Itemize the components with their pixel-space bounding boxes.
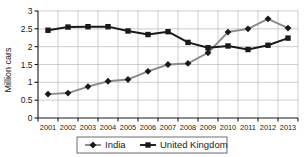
y-tick-label: 3 — [28, 6, 33, 16]
data-point-marker — [265, 43, 270, 48]
data-point-marker — [265, 15, 272, 22]
x-tick-label: 2004 — [100, 123, 116, 132]
data-point-marker — [145, 32, 150, 37]
data-point-marker — [105, 78, 112, 85]
x-tick-label: 2010 — [220, 123, 236, 132]
data-point-marker — [125, 28, 130, 33]
line-chart-container: 00.511.522.53 20012002200320042005200620… — [0, 0, 304, 157]
x-tick-label: 2008 — [180, 123, 196, 132]
series-united-kingdom — [45, 24, 290, 52]
x-tick-label: 2011 — [240, 123, 256, 132]
y-tick-label: 1 — [28, 77, 33, 87]
data-point-marker — [165, 61, 172, 68]
y-tick-label: 2 — [28, 42, 33, 52]
data-point-marker — [85, 83, 92, 90]
data-point-marker — [85, 24, 90, 29]
y-tick-label: 1.5 — [21, 60, 33, 70]
data-point-marker — [125, 76, 132, 83]
x-axis-tick-labels: 2001200220032004200520062007200820092010… — [40, 123, 296, 132]
y-tick-label: 2.5 — [21, 24, 33, 34]
x-tick-label: 2013 — [280, 123, 296, 132]
data-point-marker — [145, 68, 152, 75]
data-point-marker — [225, 43, 230, 48]
data-point-marker — [105, 24, 110, 29]
data-point-marker — [65, 24, 70, 29]
x-tick-label: 2006 — [140, 123, 156, 132]
legend-label: India — [105, 139, 126, 150]
y-axis-title: Million cars — [3, 47, 13, 93]
data-point-marker — [285, 25, 292, 32]
x-tick-label: 2007 — [160, 123, 176, 132]
x-tick-label: 2001 — [40, 123, 56, 132]
chart-legend: IndiaUnited Kingdom — [77, 137, 228, 153]
x-tick-label: 2012 — [260, 123, 276, 132]
data-point-marker — [285, 35, 290, 40]
data-point-marker — [45, 91, 52, 98]
x-tick-label: 2009 — [200, 123, 216, 132]
x-tick-label: 2002 — [60, 123, 76, 132]
data-point-marker — [185, 40, 190, 45]
legend-marker — [145, 142, 150, 147]
x-tick-label: 2005 — [120, 123, 136, 132]
y-tick-label: 0 — [28, 113, 33, 123]
y-axis-tick-labels: 00.511.522.53 — [21, 6, 33, 123]
legend-label: United Kingdom — [160, 139, 228, 150]
data-series-group — [45, 15, 292, 97]
x-tick-label: 2003 — [80, 123, 96, 132]
data-point-marker — [65, 90, 72, 97]
data-point-marker — [185, 60, 192, 67]
chart-plot-area: 00.511.522.53 20012002200320042005200620… — [0, 0, 304, 157]
data-point-marker — [245, 47, 250, 52]
data-point-marker — [165, 29, 170, 34]
data-point-marker — [45, 28, 50, 33]
data-point-marker — [245, 25, 252, 32]
y-tick-label: 0.5 — [21, 95, 33, 105]
data-point-marker — [205, 45, 210, 50]
